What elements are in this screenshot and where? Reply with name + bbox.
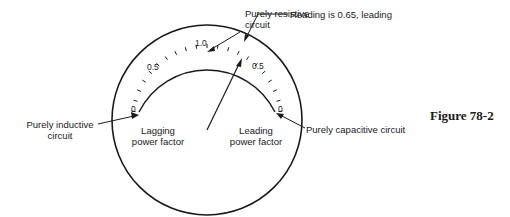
scale-label-unity: 1.0 [195,38,207,48]
resistive-arrowhead-icon [207,46,215,52]
scale-tick [268,80,271,82]
figure-caption: Figure 78-2 [430,108,494,124]
scale-tick [262,71,265,74]
meter-outer-circle [112,25,302,215]
scale-ticks [132,44,283,112]
scale-tick [137,90,141,92]
scale-tick [185,47,186,51]
scale-tick [247,56,249,59]
leading-region-label: Leading power factor [226,125,286,147]
scale-arc [139,70,275,112]
callout-reading: Reading is 0.65, leading [290,9,392,20]
scale-tick [134,100,138,101]
scale-tick [142,80,145,82]
resistive-leader [210,32,240,50]
scale-label-left-zero: 0 [131,104,136,114]
scale-label-right-zero: 0 [278,104,283,114]
scale-label-right-half: 0.5 [252,61,264,71]
lagging-region-label: Lagging power factor [128,125,188,147]
callout-purely-capacitive: Purely capacitive circuit [306,124,405,135]
scale-label-left-half: 0.5 [147,62,159,72]
scale-tick [273,90,277,92]
inductive-leader [98,116,134,124]
scale-tick [277,100,281,101]
needle-arrowhead-icon [236,58,242,67]
callout-purely-inductive: Purely inductive circuit [22,119,98,141]
scale-tick [165,56,167,59]
scale-tick [237,51,239,55]
scale-tick [175,51,177,55]
scale-tick [228,47,229,51]
